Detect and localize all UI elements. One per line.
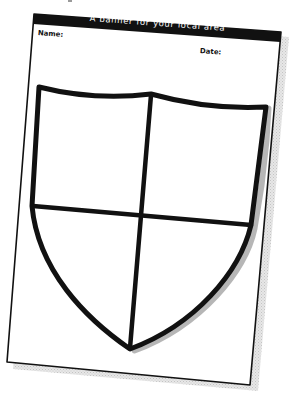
date-label: Date: — [200, 47, 222, 57]
stray-mark — [68, 0, 72, 2]
shield-quadrant-top-left — [36, 93, 148, 208]
shield-quadrant-top-right — [144, 101, 260, 221]
worksheet-scene: A banner for your local area Name: Date: — [0, 0, 291, 402]
